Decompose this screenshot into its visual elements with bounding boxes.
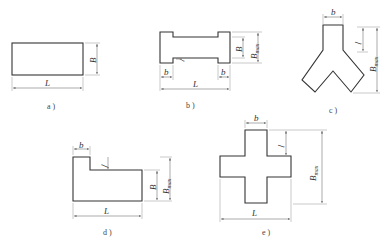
figure-c: b l Bmax c )	[302, 7, 380, 115]
label-B: B	[88, 57, 98, 63]
cross-shape	[220, 130, 291, 203]
caption-b: b )	[186, 101, 195, 110]
stepped-shape	[73, 157, 142, 201]
label-L: L	[44, 78, 50, 88]
rectangle-shape	[12, 43, 83, 75]
label-l: l	[353, 41, 363, 46]
label-Bmax: Bmax	[308, 165, 319, 181]
label-B: B	[234, 46, 244, 52]
caption-c: c )	[329, 106, 338, 115]
label-Bmax: Bmax	[368, 56, 379, 72]
caption-d: d )	[103, 228, 112, 237]
label-b: b	[254, 113, 259, 123]
figure-d: b l B Bmax L d )	[73, 140, 172, 237]
caption-e: e )	[262, 228, 271, 237]
label-b-right: b	[221, 67, 226, 77]
label-Bmax: Bmax	[249, 43, 260, 59]
label-b: b	[331, 7, 336, 17]
label-L: L	[103, 206, 109, 216]
figure-e: b l Bmax L e )	[220, 113, 327, 237]
caption-a: a )	[47, 102, 56, 111]
figure-a: L B a )	[12, 43, 100, 111]
figure-b: l b b L B Bmax b )	[160, 32, 262, 110]
label-B: B	[148, 184, 158, 190]
label-L: L	[192, 79, 198, 89]
dumbbell-shape	[160, 32, 230, 63]
label-l: l	[276, 144, 286, 149]
label-L: L	[251, 208, 257, 218]
y-shape	[302, 25, 364, 92]
label-Bmax: Bmax	[161, 178, 172, 194]
label-b: b	[79, 140, 84, 150]
label-b-left: b	[164, 67, 169, 77]
shape-diagrams: L B a ) l b b L B Bmax b )	[0, 0, 392, 249]
label-l: l	[178, 58, 186, 63]
